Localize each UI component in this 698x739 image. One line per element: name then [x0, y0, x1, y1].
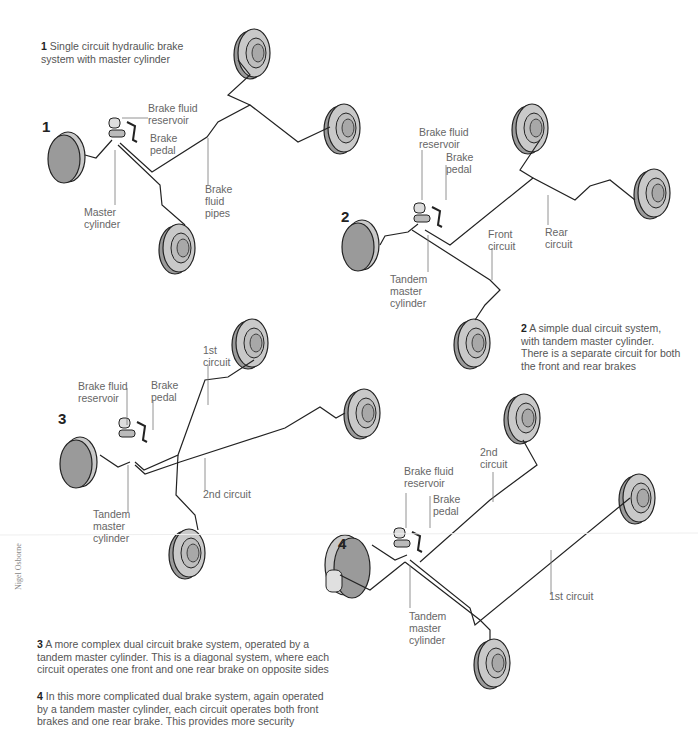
- label-master-cylinder-1: Master cylinder: [84, 206, 120, 230]
- label-brake-fluid-reservoir-2: Brake fluid reservoir: [419, 126, 469, 150]
- caption-2: 2 A simple dual circuit system, with tan…: [521, 322, 681, 372]
- illustrator-credit: Nigel Osborne: [14, 543, 23, 590]
- caption-1-number: 1: [41, 40, 47, 52]
- diagram-4: [325, 394, 655, 689]
- caption-3-number: 3: [37, 638, 43, 650]
- tandem-master-cylinder-4: [394, 528, 422, 552]
- caption-1: 1 Single circuit hydraulic brake system …: [41, 40, 191, 65]
- label-brake-fluid-reservoir-1: Brake fluid reservoir: [148, 102, 198, 126]
- wheel-rear-right: [634, 169, 670, 219]
- label-brake-fluid-reservoir-4: Brake fluid reservoir: [404, 465, 454, 489]
- caption-3: 3 A more complex dual circuit brake syst…: [37, 638, 337, 676]
- diagram-4-number: 4: [338, 535, 346, 552]
- diagram-1: [48, 29, 360, 274]
- wheel-rear-left: [234, 29, 270, 79]
- wheel-front-left: [325, 535, 370, 598]
- label-front-circuit-2: Front circuit: [488, 228, 515, 252]
- wheel-rear-left: [512, 104, 548, 154]
- wheel-rear-right: [619, 474, 655, 524]
- caption-3-text: A more complex dual circuit brake system…: [37, 638, 329, 675]
- diagram-1-number: 1: [42, 118, 50, 135]
- master-cylinder-1: [109, 118, 137, 142]
- label-2nd-circuit-3: 2nd circuit: [203, 488, 251, 500]
- wheel-front-right: [474, 639, 510, 689]
- wheel-front-left: [60, 437, 97, 488]
- caption-4: 4 In this more complicated dual brake sy…: [37, 690, 337, 728]
- wheel-front-left: [48, 132, 85, 183]
- diagram-3-number: 3: [58, 410, 66, 427]
- label-brake-fluid-pipes-1: Brake fluid pipes: [205, 183, 232, 219]
- label-tandem-master-cylinder-3: Tandem master cylinder: [93, 508, 130, 544]
- tandem-master-cylinder-3: [119, 418, 147, 442]
- label-brake-pedal-1: Brake pedal: [150, 132, 177, 156]
- caption-2-number: 2: [521, 322, 527, 334]
- label-brake-fluid-reservoir-3: Brake fluid reservoir: [78, 380, 128, 404]
- caption-4-number: 4: [37, 690, 43, 702]
- caption-2-text: A simple dual circuit system, with tande…: [521, 322, 680, 372]
- wheel-rear-right: [344, 389, 380, 439]
- diagram-2-number: 2: [341, 208, 349, 225]
- wheel-rear-left: [504, 394, 540, 444]
- label-brake-pedal-4: Brake pedal: [433, 493, 460, 517]
- label-tandem-master-cylinder-2: Tandem master cylinder: [390, 273, 427, 309]
- wheel-rear-right: [324, 104, 360, 154]
- label-brake-pedal-2: Brake pedal: [446, 151, 473, 175]
- label-1st-circuit-3: 1st circuit: [203, 344, 230, 368]
- label-tandem-master-cylinder-4: Tandem master cylinder: [409, 610, 446, 646]
- wheel-front-right: [159, 224, 195, 274]
- tandem-master-cylinder-2: [414, 203, 442, 227]
- wheel-front-left: [342, 220, 379, 271]
- caption-4-text: In this more complicated dual brake syst…: [37, 690, 324, 727]
- label-brake-pedal-3: Brake pedal: [151, 379, 178, 403]
- wheel-rear-left: [232, 319, 268, 369]
- label-1st-circuit-4: 1st circuit: [549, 590, 593, 602]
- label-rear-circuit-2: Rear circuit: [545, 226, 572, 250]
- wheel-front-right: [169, 529, 205, 579]
- caption-1-text: Single circuit hydraulic brake system wi…: [41, 40, 183, 65]
- label-2nd-circuit-4: 2nd circuit: [480, 446, 507, 470]
- wheel-front-right: [454, 319, 490, 369]
